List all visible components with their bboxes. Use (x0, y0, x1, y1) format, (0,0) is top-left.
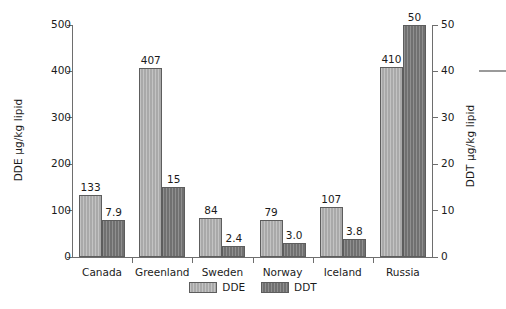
bar-value-ddt: 7.9 (93, 206, 134, 218)
category-label: Greenland (132, 266, 192, 278)
left-tick-label: 300 (31, 111, 71, 123)
legend-item-dde[interactable]: DDE (189, 281, 245, 293)
category-label: Sweden (192, 266, 252, 278)
x-tick-mark (192, 258, 193, 263)
x-tick-mark (373, 258, 374, 263)
left-tick-label: 500 (31, 18, 71, 30)
bar-dde[interactable] (139, 68, 162, 257)
left-axis-title: DDE µg/kg lipid (12, 85, 24, 195)
x-tick-mark (313, 258, 314, 263)
bar-ddt[interactable] (222, 246, 245, 257)
bar-dde[interactable] (79, 195, 102, 257)
bar-value-dde: 84 (190, 204, 231, 216)
bar-value-dde: 407 (130, 54, 171, 66)
legend-swatch-dde (189, 282, 217, 293)
bar-value-dde: 107 (311, 193, 352, 205)
bar-chart: DDE µg/kg lipid DDT µg/kg lipid 01002003… (0, 0, 506, 309)
left-tick-label: 400 (31, 64, 71, 76)
right-tick-label: 20 (441, 157, 481, 169)
right-axis-title: DDT µg/kg lipid (464, 91, 476, 201)
right-axis-line (432, 25, 433, 258)
right-tick-label: 40 (441, 64, 481, 76)
legend-swatch-ddt (261, 282, 289, 293)
plot-area: 0100200300400500 01020304050 1337.940715… (72, 25, 433, 258)
legend-label-ddt: DDT (294, 281, 317, 293)
right-tick-label: 30 (441, 111, 481, 123)
left-tick-label: 100 (31, 204, 71, 216)
category-label: Russia (373, 266, 433, 278)
chart-legend: DDE DDT (0, 281, 506, 293)
legend-item-ddt[interactable]: DDT (261, 281, 317, 293)
bar-ddt[interactable] (343, 239, 366, 257)
bar-value-ddt: 2.4 (213, 232, 254, 244)
right-tick-mark (433, 164, 438, 165)
bar-ddt[interactable] (102, 220, 125, 257)
category-label: Iceland (313, 266, 373, 278)
bar-value-ddt: 3.0 (274, 229, 315, 241)
x-tick-mark (132, 258, 133, 263)
right-tick-mark (433, 25, 438, 26)
x-tick-mark (253, 258, 254, 263)
bar-value-ddt: 3.8 (334, 225, 375, 237)
left-tick-label: 200 (31, 157, 71, 169)
right-tick-mark (433, 257, 438, 258)
right-tick-mark (433, 117, 438, 118)
bar-ddt[interactable] (283, 243, 306, 257)
edge-rule-artifact (479, 70, 506, 72)
right-tick-label: 0 (441, 250, 481, 262)
bar-ddt[interactable] (162, 187, 185, 257)
left-tick-label: 0 (31, 250, 71, 262)
bar-ddt[interactable] (403, 25, 426, 257)
category-label: Norway (253, 266, 313, 278)
bar-value-dde: 133 (70, 181, 111, 193)
legend-label-dde: DDE (222, 281, 245, 293)
right-tick-label: 50 (441, 18, 481, 30)
right-tick-mark (433, 71, 438, 72)
left-axis-line (72, 25, 73, 258)
category-label: Canada (72, 266, 132, 278)
bar-dde[interactable] (380, 67, 403, 257)
right-tick-label: 10 (441, 204, 481, 216)
right-tick-mark (433, 210, 438, 211)
bar-value-ddt: 15 (153, 173, 194, 185)
bar-value-ddt: 50 (394, 11, 435, 23)
bar-value-dde: 79 (251, 206, 292, 218)
